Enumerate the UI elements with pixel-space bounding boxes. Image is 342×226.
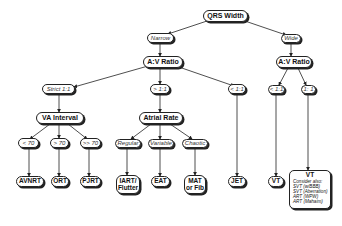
qrs-width-node: QRS Width [203, 10, 248, 22]
va-interval-node: VA Interval [36, 112, 84, 124]
wide-label: Wide [281, 34, 301, 43]
gt-1-1-label: > 1:1 [150, 84, 170, 94]
avnrt-result: AVNRT [16, 176, 44, 187]
gtgt70-label: >> 70 [80, 138, 101, 148]
iart-line2: Flutter [118, 185, 138, 192]
strict-1-1-label: Strict 1:1 [42, 84, 75, 94]
av-ratio-wide-node: A:V Ratio [276, 56, 312, 68]
vt-result: VT [268, 176, 284, 187]
av-ratio-narrow-node: A:V Ratio [143, 56, 183, 68]
consider-item: ART (Mahaim) [290, 199, 323, 204]
iart-flutter-result: IART/ Flutter [116, 175, 140, 194]
gt70-label: > 70 [50, 138, 69, 148]
mat-fib-result: MAT or Fib [184, 175, 206, 194]
eq-1-1-wide-label: 1: 1 [301, 85, 316, 94]
eat-result: EAT [151, 176, 170, 187]
jet-result: JET [228, 176, 246, 187]
regular-label: Regular [115, 139, 141, 148]
vt-consider-result: VT Consider also: SVT (w/BBB) SVT (Aberr… [289, 170, 331, 209]
mat-line2: or Fib [186, 185, 204, 192]
vt-title: VT [306, 172, 314, 179]
variable-label: Variable [148, 139, 174, 148]
narrow-label: Narrow [147, 33, 174, 43]
flowchart: QRS Width Narrow Wide A:V Ratio A:V Rati… [0, 0, 342, 226]
lt-1-1-wide-label: < 1:1 [268, 85, 285, 94]
ort-result: ORT [51, 176, 69, 187]
atrial-rate-node: Atrial Rate [139, 112, 183, 124]
pjrt-result: PJRT [80, 176, 101, 187]
lt-1-1-narrow-label: < 1:1 [228, 84, 246, 94]
lt70-label: < 70 [18, 138, 39, 148]
chaotic-label: Chaotic [182, 139, 208, 148]
